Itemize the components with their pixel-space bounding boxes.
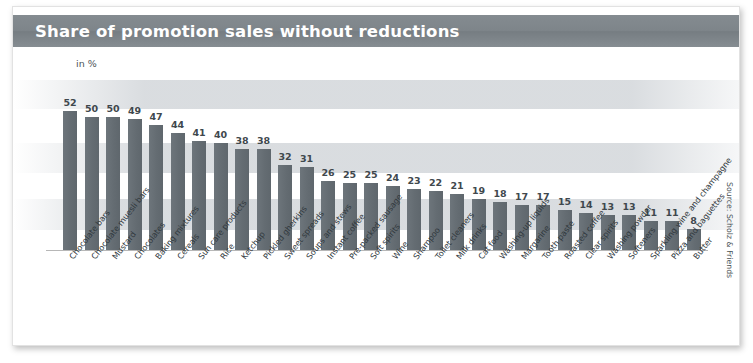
source-note: Source: Scholz & Friends [723,182,735,302]
category-label: Rice [218,242,236,262]
plot-area: in % 52505049474441403838323126252524232… [13,47,740,346]
category-axis-labels: Chocolate barsChocolate muesli barsMusta… [13,47,740,346]
source-text: Source: Scholz & Friends [725,182,734,278]
category-label: Wine [390,239,410,261]
page-title: Share of promotion sales without reducti… [35,22,460,41]
category-label: Sparkling wine and champagne [648,155,734,261]
figure-root: Share of promotion sales without reducti… [0,0,753,363]
chart-card: Share of promotion sales without reducti… [12,6,740,346]
chart-title-bar: Share of promotion sales without reducti… [13,15,740,47]
